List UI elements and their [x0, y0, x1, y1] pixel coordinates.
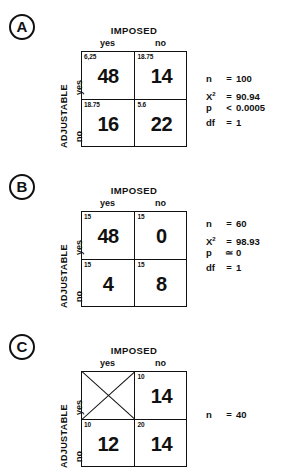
stat-operator: = [222, 116, 236, 131]
stat-operator: = [222, 408, 236, 423]
stat-label: n [206, 217, 222, 232]
panel-letter-a: A [9, 14, 35, 40]
stat-row-chi-square: X2=90.94 [206, 87, 265, 102]
crossed-out-cell-icon [82, 372, 134, 419]
column-group-label-a: IMPOSED [81, 25, 187, 36]
column-group-label-b: IMPOSED [81, 185, 187, 196]
stat-superscript: 2 [212, 91, 215, 97]
stat-operator: < [222, 101, 236, 116]
stat-superscript: 2 [212, 236, 215, 242]
column-header-no-c: no [134, 358, 187, 368]
observed-value: 48 [82, 65, 134, 88]
stat-value: 1 [236, 261, 241, 276]
stat-operator: = [222, 217, 236, 232]
stat-label: df [206, 116, 222, 131]
table-cell-no-yes-c: 10 12 [82, 420, 134, 467]
contingency-table-c: 10 14 10 12 20 14 [81, 371, 187, 467]
row-group-label-c: ADJUSTABLE [59, 404, 69, 468]
expected-value: 15 [137, 261, 144, 269]
expected-value: 15 [84, 261, 91, 269]
stat-label: n [206, 72, 222, 87]
stat-row-n: n=100 [206, 72, 265, 87]
observed-value: 4 [82, 273, 134, 296]
observed-value: 22 [135, 113, 187, 136]
stat-value: 40 [236, 408, 247, 423]
observed-value: 14 [135, 385, 187, 408]
row-group-label-a: ADJUSTABLE [59, 84, 69, 148]
stat-value: 100 [236, 72, 252, 87]
stat-value: 1 [236, 116, 241, 131]
expected-value: 15 [137, 213, 144, 221]
observed-value: 14 [135, 433, 187, 456]
panel-letter-c: C [9, 334, 35, 360]
table-cell-no-no-a: 5.6 22 [135, 100, 187, 147]
stat-row-df: df=1 [206, 116, 265, 131]
stat-row-n: n=60 [206, 217, 260, 232]
column-group-label-c: IMPOSED [81, 345, 187, 356]
table-cell-yes-no-c: 10 14 [135, 372, 187, 419]
stat-row-df: df=1 [206, 261, 260, 276]
stat-label: df [206, 261, 222, 276]
expected-value: 6,25 [84, 53, 96, 61]
table-cell-yes-yes-a: 6,25 48 [82, 52, 134, 99]
contingency-table-b: 15 48 15 0 15 4 15 8 [81, 211, 187, 307]
table-cell-yes-yes-c [82, 372, 134, 419]
observed-value: 48 [82, 225, 134, 248]
table-cell-no-yes-a: 18.75 16 [82, 100, 134, 147]
stat-row-chi-square: X2=98.93 [206, 232, 260, 247]
panel-letter-b: B [9, 174, 35, 200]
table-cell-yes-yes-b: 15 48 [82, 212, 134, 259]
table-cell-yes-no-b: 15 0 [135, 212, 187, 259]
table-cell-no-no-c: 20 14 [135, 420, 187, 467]
observed-value: 12 [82, 433, 134, 456]
column-header-no-b: no [134, 198, 187, 208]
statistics-block-b: n=60 X2=98.93 p≃0 df=1 [206, 217, 260, 275]
expected-value: 5.6 [137, 101, 146, 109]
table-cell-yes-no-a: 18.75 14 [135, 52, 187, 99]
expected-value: 10 [84, 421, 91, 429]
observed-value: 16 [82, 113, 134, 136]
column-header-yes-a: yes [81, 38, 134, 48]
stat-value: 0 [236, 246, 241, 261]
stat-row-n: n=40 [206, 408, 247, 423]
stat-value: 60 [236, 217, 247, 232]
expected-value: 18.75 [137, 53, 153, 61]
stat-operator: = [222, 72, 236, 87]
observed-value: 14 [135, 65, 187, 88]
contingency-table-a: 6,25 48 18.75 14 18.75 16 5.6 22 [81, 51, 187, 147]
row-group-label-b: ADJUSTABLE [59, 244, 69, 308]
expected-value: 18.75 [84, 101, 100, 109]
stat-row-p: p<0.0005 [206, 101, 265, 116]
stat-operator: ≃ [222, 246, 236, 261]
expected-value: 15 [84, 213, 91, 221]
statistics-block-a: n=100 X2=90.94 p<0.0005 df=1 [206, 72, 265, 130]
stat-operator: = [222, 261, 236, 276]
stat-label: p [206, 246, 222, 261]
table-cell-no-no-b: 15 8 [135, 260, 187, 307]
observed-value: 8 [135, 273, 187, 296]
expected-value: 10 [137, 373, 144, 381]
column-header-yes-c: yes [81, 358, 134, 368]
statistics-block-c: n=40 [206, 408, 247, 423]
expected-value: 20 [137, 421, 144, 429]
stat-label: n [206, 408, 222, 423]
stat-label: p [206, 101, 222, 116]
column-header-no-a: no [134, 38, 187, 48]
stat-value: 0.0005 [236, 101, 265, 116]
column-header-yes-b: yes [81, 198, 134, 208]
table-cell-no-yes-b: 15 4 [82, 260, 134, 307]
observed-value: 0 [135, 225, 187, 248]
